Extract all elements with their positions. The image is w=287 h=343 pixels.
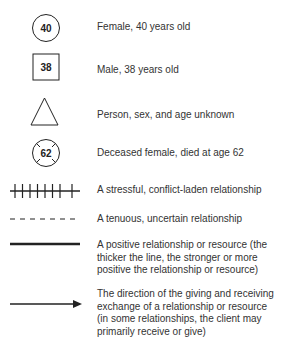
deceased-age: 62 (40, 148, 52, 159)
label-line: positive the relationship or resource) (97, 264, 267, 277)
legend-label-deceased-female: Deceased female, died at age 62 (97, 147, 244, 160)
label-line: Female, 40 years old (97, 21, 190, 34)
direction-arrow-icon (10, 300, 82, 308)
label-line: Deceased female, died at age 62 (97, 147, 244, 160)
deceased-female-circle-icon: 62 (33, 140, 60, 167)
legend-label-positive: A positive relationship or resource (the… (97, 239, 267, 277)
label-line: Person, sex, and age unknown (97, 109, 234, 122)
legend-label-direction: The direction of the giving and receivin… (97, 288, 274, 338)
female-circle-icon: 40 (33, 15, 60, 42)
label-line: A tenuous, uncertain relationship (97, 213, 242, 226)
legend-label-unknown-person: Person, sex, and age unknown (97, 109, 234, 122)
female-age: 40 (40, 23, 52, 34)
label-line: A stressful, conflict-laden relationship (97, 184, 262, 197)
label-line: A positive relationship or resource (the (97, 239, 267, 252)
legend-label-tenuous: A tenuous, uncertain relationship (97, 213, 242, 226)
legend-label-male: Male, 38 years old (97, 64, 179, 77)
label-line: thicker the line, the stronger or more (97, 252, 267, 265)
male-age: 38 (40, 62, 52, 73)
label-line: The direction of the giving and receivin… (97, 288, 274, 301)
male-square-icon: 38 (33, 54, 59, 80)
unknown-person-triangle-icon (31, 98, 58, 125)
legend-label-female: Female, 40 years old (97, 21, 190, 34)
label-line: Male, 38 years old (97, 64, 179, 77)
stressful-relationship-line-icon (10, 184, 80, 198)
legend-label-stressful: A stressful, conflict-laden relationship (97, 184, 262, 197)
label-line: primarily receive or give) (97, 326, 274, 339)
label-line: (in some relationships, the client may (97, 313, 274, 326)
label-line: exchange of a relationship or resource (97, 301, 274, 314)
